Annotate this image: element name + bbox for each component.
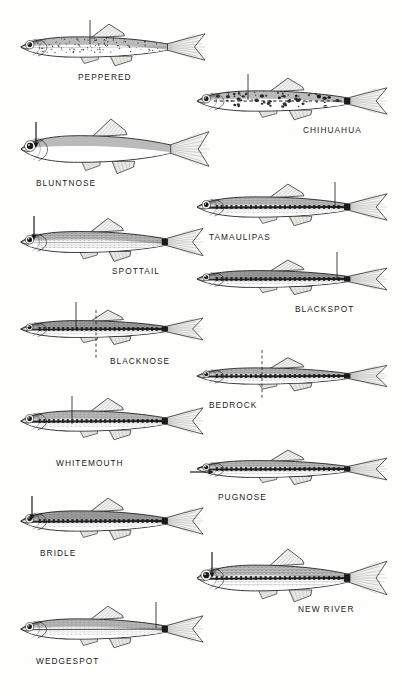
species-label-bedrock: BEDROCK: [209, 400, 257, 410]
fish-drawing: [14, 492, 204, 550]
fish-illustration-whitemouth: [14, 392, 204, 450]
species-label-tamaulipas: TAMAULIPAS: [209, 232, 271, 242]
fish-illustration-tamaulipas: [190, 178, 388, 236]
fish-drawing: [190, 178, 388, 236]
species-label-chihuahua: CHIHUAHUA: [303, 125, 362, 135]
species-label-bridle: BRIDLE: [40, 548, 76, 558]
fish-illustration-spottail: [14, 212, 204, 272]
fish-illustration-pugnose: [190, 440, 388, 498]
species-label-bluntnose: BLUNTNOSE: [36, 178, 96, 188]
fish-drawing: [14, 212, 204, 272]
species-label-new-river: NEW RIVER: [298, 604, 354, 614]
fish-illustration-blacknose: [14, 300, 204, 358]
fish-drawing: [14, 600, 204, 658]
species-label-blackspot: BLACKSPOT: [295, 304, 354, 314]
fish-drawing: [190, 440, 388, 498]
fish-illustration-wedgespot: [14, 600, 204, 658]
species-label-pugnose: PUGNOSE: [218, 492, 267, 502]
fish-illustration-blackspot: [190, 250, 388, 308]
species-label-wedgespot: WEDGESPOT: [36, 656, 99, 666]
fish-drawing: [14, 300, 204, 358]
fish-illustration-peppered: [14, 18, 206, 76]
fish-illustration-bedrock: [190, 348, 388, 404]
species-label-peppered: PEPPERED: [78, 72, 132, 82]
species-label-blacknose: BLACKNOSE: [110, 356, 170, 366]
species-label-whitemouth: WHITEMOUTH: [56, 458, 124, 468]
fish-illustration-new-river: [190, 548, 388, 608]
fish-drawing: [190, 72, 388, 130]
fish-drawing: [190, 348, 388, 404]
species-label-spottail: SPOTTAIL: [112, 266, 160, 276]
fish-drawing: [14, 18, 206, 76]
fish-drawing: [190, 548, 388, 608]
fish-illustration-bluntnose: [14, 118, 210, 180]
fish-drawing: [14, 118, 210, 180]
fish-drawing: [14, 392, 204, 450]
fish-illustration-bridle: [14, 492, 204, 550]
fish-illustration-chihuahua: [190, 72, 388, 130]
fish-drawing: [190, 250, 388, 308]
fish-identification-plate: PEPPERED CHIHUAHUA BLUNTNOSE TAMAULIPAS …: [0, 0, 402, 696]
